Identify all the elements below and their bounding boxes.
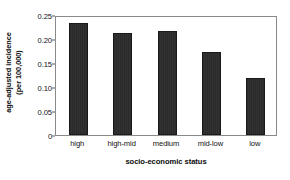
- y-axis-tick-label: 0.10: [26, 84, 52, 93]
- x-axis-tick-label: mid-low: [198, 139, 223, 148]
- y-axis-tick-labels: 00.050.100.150.200.25: [25, 0, 52, 180]
- y-axis-title-text: age-adjusted incidence (per 100,000): [4, 32, 23, 113]
- bar-medium: [158, 31, 177, 135]
- y-axis-title-line-1: age-adjusted incidence: [4, 32, 14, 113]
- plot-area: [55, 16, 277, 136]
- y-axis-title: age-adjusted incidence (per 100,000): [0, 0, 26, 145]
- y-axis-tick-label: 0.25: [26, 12, 52, 21]
- x-axis-title: socio-economic status: [55, 157, 277, 166]
- y-axis-tick-label: 0.15: [26, 60, 52, 69]
- y-axis-tick-label: 0: [26, 132, 52, 141]
- bar-low: [246, 78, 265, 135]
- x-axis-tick-label: high-mid: [107, 139, 135, 148]
- x-axis-tick-label: medium: [153, 139, 179, 148]
- x-axis-tick-label: high: [70, 139, 84, 148]
- x-axis-tick-label: low: [249, 139, 260, 148]
- y-axis-tick-label: 0.05: [26, 108, 52, 117]
- bar-mid-low: [202, 52, 221, 135]
- x-axis-tick-labels: highhigh-midmediummid-lowlow: [55, 139, 277, 151]
- bar-chart-figure: age-adjusted incidence (per 100,000) 00.…: [0, 0, 290, 180]
- bar-series: [56, 17, 276, 135]
- y-axis-title-line-2: (per 100,000): [13, 32, 23, 113]
- bar-high-mid: [113, 33, 132, 135]
- y-axis-tick-label: 0.20: [26, 36, 52, 45]
- bar-high: [69, 23, 88, 135]
